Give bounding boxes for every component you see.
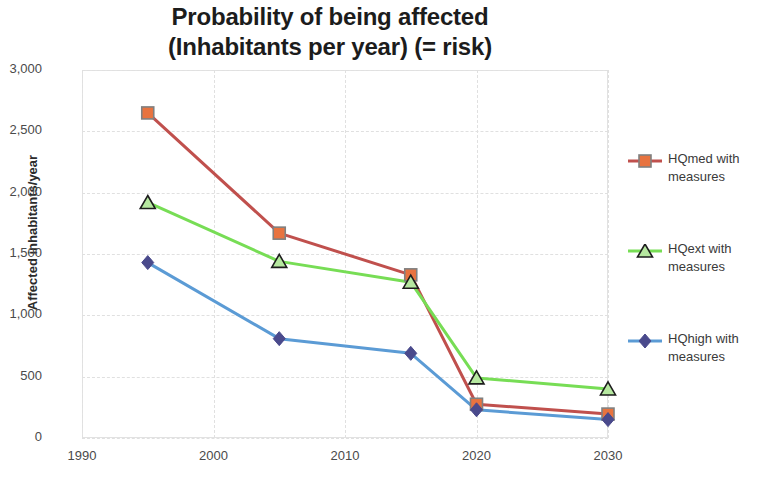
legend-label: HQmed with xyxy=(668,150,761,168)
legend-label: measures xyxy=(668,168,761,186)
legend-marker-triangle-icon xyxy=(628,244,662,258)
legend-item[interactable]: HQext withmeasures xyxy=(628,240,761,276)
x-axis-tick-label: 2000 xyxy=(179,448,249,463)
legend-item[interactable]: HQmed withmeasures xyxy=(628,150,761,186)
gridline-vertical xyxy=(608,70,609,438)
y-axis-tick-label: 500 xyxy=(0,368,42,383)
legend-label: HQhigh with xyxy=(668,330,761,348)
y-axis-tick-label: 1,000 xyxy=(0,306,42,321)
gridline-vertical xyxy=(214,70,215,438)
chart-title-line-2: (Inhabitants per year) (= risk) xyxy=(70,32,590,62)
y-axis-tick-label: 3,000 xyxy=(0,61,42,76)
legend-label: HQext with xyxy=(668,240,761,258)
chart-title: Probability of being affected (Inhabitan… xyxy=(70,2,590,62)
gridline-vertical xyxy=(477,70,478,438)
y-axis-tick-label: 2,000 xyxy=(0,184,42,199)
gridline-vertical xyxy=(82,70,83,438)
gridline-horizontal xyxy=(82,438,608,439)
y-axis-tick-label: 1,500 xyxy=(0,245,42,260)
data-point-marker-square xyxy=(639,155,651,167)
y-axis-tick-label: 2,500 xyxy=(0,122,42,137)
legend-item[interactable]: HQhigh withmeasures xyxy=(628,330,761,366)
data-point-marker-diamond xyxy=(639,334,651,348)
x-axis-tick-label: 2020 xyxy=(442,448,512,463)
legend-marker-diamond-icon xyxy=(628,334,662,348)
gridline-vertical xyxy=(345,70,346,438)
x-axis-tick-label: 2010 xyxy=(310,448,380,463)
y-axis-tick-label: 0 xyxy=(0,429,42,444)
chart-title-line-1: Probability of being affected xyxy=(70,2,590,32)
legend-label: measures xyxy=(668,258,761,276)
chart-page: Probability of being affected (Inhabitan… xyxy=(0,0,761,478)
x-axis-tick-label: 2030 xyxy=(573,448,643,463)
legend-label: measures xyxy=(668,348,761,366)
x-axis-tick-label: 1990 xyxy=(47,448,117,463)
legend-marker-square-icon xyxy=(628,154,662,168)
plot-area xyxy=(82,70,608,438)
